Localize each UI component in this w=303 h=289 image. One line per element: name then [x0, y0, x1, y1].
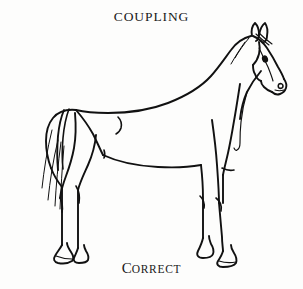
chin-lower-lip [261, 81, 272, 92]
illustration-page: COUPLING [0, 0, 303, 289]
ear-near [252, 23, 259, 41]
hindleg-off-front [78, 135, 96, 190]
neck-jugular-line [234, 92, 247, 150]
chest-foreleg-off-line [201, 165, 203, 238]
topline-crest-back-croup [76, 36, 251, 113]
shoulder-forearm-front [223, 84, 240, 175]
caption-rest: ORRECT [132, 263, 182, 275]
mouth-line [275, 90, 284, 91]
horse-figure [0, 0, 303, 289]
jaw-line [253, 42, 260, 65]
stifle-gaskin-contour [76, 110, 103, 155]
barrel-belly-line [103, 155, 201, 167]
foreleg-near-rear-line [212, 120, 219, 203]
figure-caption: CORRECT [0, 259, 303, 277]
nostril [278, 84, 283, 89]
coupling-loin-mark [116, 117, 121, 134]
caption-initial: C [122, 260, 132, 276]
muzzle-outline [272, 79, 286, 94]
mane-strand-1 [235, 38, 249, 58]
hoof-front-off [197, 236, 213, 258]
flank-tuck-tick [104, 150, 105, 158]
mane-strand-2 [231, 42, 245, 64]
